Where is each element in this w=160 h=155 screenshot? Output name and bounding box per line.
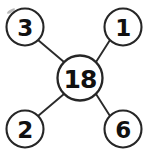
node-bottom-right-label: 6 xyxy=(115,117,131,143)
edge-top-left-to-center xyxy=(38,40,64,62)
edge-top-right-to-center xyxy=(96,40,110,62)
diagram-canvas: 3 1 2 6 18 xyxy=(0,0,160,155)
edge-bottom-right-to-center xyxy=(96,94,110,116)
node-bottom-right[interactable]: 6 xyxy=(105,111,142,148)
edge-bottom-left-to-center xyxy=(38,94,64,116)
number-cross-diagram: 3 1 2 6 18 xyxy=(0,0,160,155)
node-center-label: 18 xyxy=(64,65,97,94)
node-top-left-label: 3 xyxy=(17,15,33,41)
node-center[interactable]: 18 xyxy=(58,56,103,101)
node-top-left[interactable]: 3 xyxy=(7,9,44,46)
node-bottom-left-label: 2 xyxy=(17,117,33,143)
node-bottom-left[interactable]: 2 xyxy=(7,111,44,148)
node-top-right-label: 1 xyxy=(115,15,131,41)
node-top-right[interactable]: 1 xyxy=(105,9,142,46)
